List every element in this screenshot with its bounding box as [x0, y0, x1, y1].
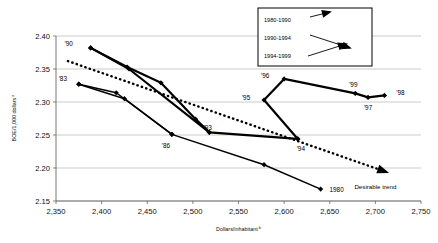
- point-label-90: '90: [65, 40, 74, 47]
- data-point-marker: [261, 162, 266, 167]
- data-point-marker: [318, 187, 323, 192]
- point-label-94: '94: [297, 145, 306, 152]
- legend-label-0: 1980-1990: [264, 17, 291, 23]
- point-label-97: '97: [364, 104, 373, 111]
- data-point-marker: [353, 91, 358, 96]
- data-point-marker: [76, 82, 81, 87]
- x-tick-label: 2,650: [320, 207, 339, 216]
- data-point-marker: [365, 95, 370, 100]
- y-tick-label: 2.20: [35, 164, 50, 173]
- x-tick-label: 2,400: [92, 207, 111, 216]
- x-tick-label: 2,350: [46, 207, 65, 216]
- y-tick-label: 2.30: [35, 98, 50, 107]
- point-label-95: '95: [242, 94, 251, 101]
- y-tick-label: 2.40: [35, 32, 50, 41]
- x-tick-label: 2,600: [275, 207, 294, 216]
- point-label-96: '96: [261, 72, 270, 79]
- desirable-trend-label: Desirable trend: [354, 183, 397, 190]
- y-tick-label: 2.15: [35, 197, 50, 206]
- desirable-trend-line: [68, 61, 386, 172]
- x-tick-label: 2,700: [366, 207, 385, 216]
- point-label-86: '86: [162, 142, 171, 149]
- desirable-trend-arrowhead: [376, 165, 389, 174]
- point-label-93: '93: [203, 124, 212, 131]
- chart-container: 2.402.352.302.252.202.152,3502,4002,4502…: [0, 0, 438, 243]
- y-tick-label: 2.35: [35, 65, 50, 74]
- x-tick-label: 2,750: [411, 207, 430, 216]
- x-tick-label: 2,550: [229, 207, 248, 216]
- data-point-marker: [382, 93, 387, 98]
- x-axis-title: Dollars/inhabitant b: [216, 226, 261, 232]
- y-axis-title: BOE/1,000 dollars a: [11, 94, 17, 142]
- y-tick-label: 2.25: [35, 131, 50, 140]
- point-label-99: '99: [349, 81, 358, 88]
- point-label-98: '98: [396, 89, 405, 96]
- x-tick-label: 2,450: [138, 207, 157, 216]
- point-label-1980: 1980: [330, 186, 345, 193]
- scatter-line-chart: 2.402.352.302.252.202.152,3502,4002,4502…: [0, 0, 438, 243]
- legend-label-1: 1990-1994: [264, 35, 291, 41]
- point-label-83: '83: [59, 75, 68, 82]
- legend-label-2: 1994-1999: [264, 53, 291, 59]
- x-tick-label: 2,500: [183, 207, 202, 216]
